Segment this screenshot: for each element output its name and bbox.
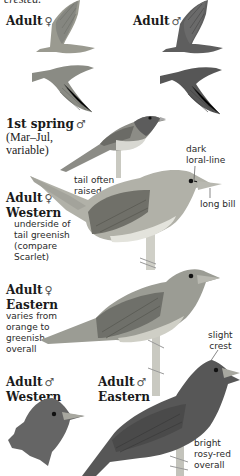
bird-male-illustrations — [0, 0, 240, 476]
